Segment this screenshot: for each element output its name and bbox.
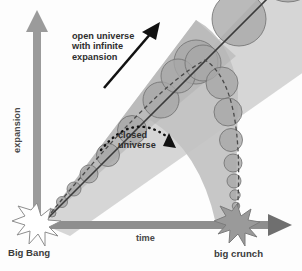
closed-universe-line-1: closed: [118, 130, 147, 140]
big-bang-label: Big Bang: [8, 248, 50, 259]
y-axis-label: expansion: [12, 100, 22, 160]
closed-universe-line-2: universe: [118, 140, 156, 150]
y-axis: [26, 10, 48, 233]
open-universe-label: open universewith infiniteexpansion: [72, 31, 134, 62]
open-universe-line-1: open universe: [72, 31, 134, 41]
big-crunch-label: big crunch: [214, 249, 263, 260]
open-universe-line-2: with infinite: [72, 41, 123, 51]
cosmology-diagram: open universewith infiniteexpansion clos…: [0, 0, 302, 271]
open-universe-line-3: expansion: [72, 52, 117, 62]
x-axis-label: time: [136, 233, 155, 243]
closed-universe-label: closeduniverse: [118, 130, 156, 151]
